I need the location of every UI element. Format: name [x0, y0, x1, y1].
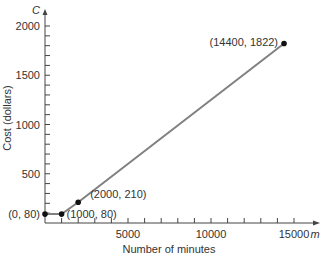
data-point-marker	[42, 211, 48, 217]
data-points: (0, 80)(1000, 80)(2000, 210)(14400, 1822…	[8, 36, 287, 221]
data-point-marker	[59, 211, 65, 217]
y-variable-label: C	[32, 4, 40, 16]
x-axis-title: Number of minutes	[123, 243, 216, 255]
y-axis-arrow-icon	[43, 9, 48, 15]
y-tick-label: 500	[22, 168, 40, 180]
cost-chart: C m 500100015002000 50001000015000 Numbe…	[0, 0, 329, 261]
data-point-label: (14400, 1822)	[210, 36, 279, 48]
x-tick-label: 15000	[279, 228, 310, 240]
x-variable-label: m	[310, 228, 319, 240]
data-point-label: (1000, 80)	[67, 208, 117, 220]
x-tick-labels: 50001000015000	[116, 228, 310, 240]
data-point-label: (2000, 210)	[90, 188, 146, 200]
x-axis-arrow-icon	[313, 221, 320, 226]
y-axis-title: Cost (dollars)	[1, 85, 13, 150]
data-point-label: (0, 80)	[8, 208, 40, 220]
y-tick-label: 1000	[16, 119, 40, 131]
y-axis-ticks	[45, 26, 50, 213]
data-point-marker	[281, 41, 287, 47]
data-point-marker	[75, 200, 81, 206]
x-tick-label: 5000	[116, 228, 140, 240]
y-tick-label: 1500	[16, 69, 40, 81]
y-tick-labels: 500100015002000	[16, 20, 40, 180]
x-tick-label: 10000	[196, 228, 227, 240]
y-tick-label: 2000	[16, 20, 40, 32]
cost-line	[45, 44, 284, 215]
